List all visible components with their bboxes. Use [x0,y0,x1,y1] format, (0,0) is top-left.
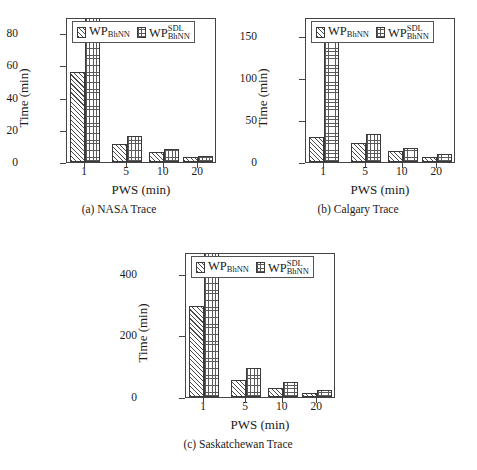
legend-swatch-hatch-icon [77,27,86,38]
bar-1-series1 [189,306,204,397]
legend-entry-wp-bhnn: WPBhNN [196,260,249,274]
bar-10-series1 [388,151,403,162]
chart-panel-saskatchewan: Time (min) 0200400 151020 PWS (min) WPBh… [119,235,357,470]
y-tick-label-0: 0 [131,392,137,404]
x-tick-mark-5 [245,398,246,403]
legend-supsub: SDLBhNN [287,259,309,275]
legend-label-wp-bhnn: WPBhNN [89,25,130,39]
y-tick-label-400: 400 [120,269,137,281]
y-tick-label-0: 0 [251,157,257,169]
legend-supsub: SDLBhNN [407,24,429,40]
x-tick-mark-20 [197,163,198,168]
bar-20-series1 [302,393,317,397]
legend-entry-wp-bhnn: WPBhNN [77,25,130,39]
x-tick-mark-10 [163,163,164,168]
subcaption-text-a: NASA Trace [97,203,156,215]
bar-1-series1 [70,72,85,162]
legend-sub-bhnn: BhNN [227,264,249,274]
bar-10-series1 [268,388,283,397]
y-tick-mark-0 [179,398,185,399]
y-tick-label-40: 40 [7,93,19,105]
legend-entry-wp-sdl-bhnn: WPSDLBhNN [256,259,309,275]
legend-label-wp-bhnn: WPBhNN [328,25,369,39]
y-tick-mark-40 [60,99,66,100]
legend-sub-bhnn: BhNN [108,29,130,39]
bar-1-series2 [324,31,339,163]
x-tick-mark-5 [126,163,127,168]
bar-5-series1 [231,380,246,397]
plot-area-saskatchewan: Time (min) 0200400 151020 PWS (min) WPBh… [119,235,357,435]
legend-label-wp-sdl-bhnn: WPSDLBhNN [149,24,190,40]
figure-three-bar-charts: Time (min) 020406080 151020 PWS (min) WP… [0,0,477,470]
legend-calgary: WPBhNN WPSDLBhNN [311,21,434,43]
legend-entry-wp-bhnn: WPBhNN [316,25,369,39]
y-tick-mark-400 [179,275,185,276]
bar-20-series1 [422,157,437,162]
legend-sub-bhnn-2: BhNN [407,32,429,40]
bar-5-series1 [351,143,366,162]
legend-swatch-dots-icon [376,27,385,38]
bar-20-series2 [198,156,213,162]
y-tick-mark-80 [60,34,66,35]
legend-nasa: WPBhNN WPSDLBhNN [72,21,195,43]
legend-entry-wp-sdl-bhnn: WPSDLBhNN [137,24,190,40]
y-tick-mark-150 [299,37,305,38]
y-tick-label-100: 100 [240,73,257,85]
legend-label-wp-sdl-bhnn: WPSDLBhNN [268,259,309,275]
legend-label-wp-sdl-bhnn: WPSDLBhNN [388,24,429,40]
y-tick-mark-20 [60,131,66,132]
legend-saskatchewan: WPBhNN WPSDLBhNN [191,256,314,278]
x-axis-label-calgary: PWS (min) [305,182,455,198]
chart-panel-nasa: Time (min) 020406080 151020 PWS (min) WP… [0,0,238,235]
subcaption-text-b: Calgary Trace [334,203,399,215]
legend-sub-bhnn-2: BhNN [168,32,190,40]
x-tick-mark-1 [203,398,204,403]
bar-20-series2 [437,154,452,162]
y-tick-mark-100 [299,79,305,80]
legend-swatch-dots-icon [256,262,265,273]
subcaption-tag-a: (a) [82,203,95,215]
subcaption-nasa: (a) NASA Trace [0,203,238,215]
x-tick-mark-1 [84,163,85,168]
x-tick-mark-10 [402,163,403,168]
y-tick-label-60: 60 [7,61,19,73]
bar-5-series1 [112,144,127,162]
legend-swatch-dots-icon [137,27,146,38]
bar-5-series2 [366,134,381,162]
bar-5-series2 [246,368,261,397]
subcaption-tag-b: (b) [317,203,330,215]
x-tick-mark-10 [282,398,283,403]
bar-10-series2 [164,149,179,162]
legend-swatch-hatch-icon [196,262,205,273]
bar-1-series1 [309,137,324,162]
y-axis-label-saskatchewan: Time (min) [135,273,151,393]
legend-sub-bhnn-2: BhNN [287,267,309,275]
legend-sub-bhnn: BhNN [347,29,369,39]
y-tick-label-50: 50 [246,115,258,127]
y-tick-label-0: 0 [12,157,18,169]
x-tick-mark-1 [323,163,324,168]
chart-panel-calgary: Time (min) 050100150 151020 PWS (min) WP… [239,0,477,235]
y-tick-label-20: 20 [7,125,19,137]
bar-20-series1 [183,157,198,162]
plot-area-nasa: Time (min) 020406080 151020 PWS (min) WP… [0,0,238,200]
y-tick-mark-50 [299,121,305,122]
bar-20-series2 [317,390,332,397]
legend-label-wp-bhnn: WPBhNN [208,260,249,274]
x-tick-mark-5 [365,163,366,168]
plot-area-calgary: Time (min) 050100150 151020 PWS (min) WP… [239,0,477,200]
y-tick-mark-0 [60,163,66,164]
y-tick-label-150: 150 [240,31,257,43]
bar-10-series2 [283,382,298,397]
subcaption-tag-c: (c) [183,438,196,450]
y-tick-label-200: 200 [120,331,137,343]
bar-5-series2 [127,136,142,162]
y-tick-mark-60 [60,66,66,67]
y-axis-label-calgary: Time (min) [255,38,271,158]
x-tick-mark-20 [316,398,317,403]
y-tick-mark-0 [299,163,305,164]
bar-10-series1 [149,152,164,162]
y-tick-label-80: 80 [7,28,19,40]
legend-supsub: SDLBhNN [168,24,190,40]
x-tick-mark-20 [436,163,437,168]
